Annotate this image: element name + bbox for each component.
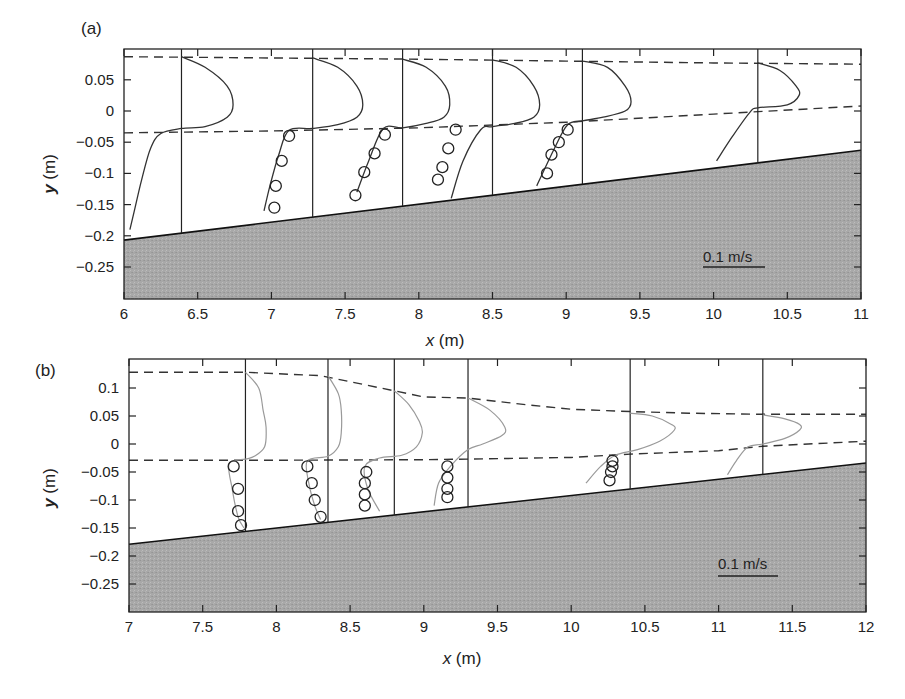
- svg-text:10.5: 10.5: [630, 618, 659, 635]
- bed-sediment: [129, 463, 866, 612]
- panel-label: (a): [81, 19, 102, 38]
- svg-text:6.5: 6.5: [187, 305, 208, 322]
- svg-text:0.05: 0.05: [85, 71, 114, 88]
- svg-text:8: 8: [272, 618, 280, 635]
- svg-text:−0.25: −0.25: [81, 575, 119, 592]
- svg-text:10: 10: [705, 305, 722, 322]
- scale-bar-label: 0.1 m/s: [703, 248, 752, 265]
- svg-text:9: 9: [420, 618, 428, 635]
- svg-text:0: 0: [106, 102, 114, 119]
- panel-label: (b): [35, 361, 56, 380]
- y-axis-label: y (m): [40, 154, 59, 195]
- upper-interface-line: [129, 372, 866, 414]
- svg-text:8: 8: [415, 305, 423, 322]
- svg-text:−0.05: −0.05: [76, 133, 114, 150]
- svg-text:10: 10: [563, 618, 580, 635]
- svg-text:−0.15: −0.15: [81, 519, 119, 536]
- svg-text:7.5: 7.5: [335, 305, 356, 322]
- svg-text:0.05: 0.05: [90, 407, 119, 424]
- svg-text:8.5: 8.5: [482, 305, 503, 322]
- svg-text:10.5: 10.5: [773, 305, 802, 322]
- svg-text:11: 11: [853, 305, 869, 322]
- lower-interface-line: [129, 441, 866, 460]
- svg-text:9.5: 9.5: [629, 305, 650, 322]
- svg-text:8.5: 8.5: [340, 618, 361, 635]
- svg-text:7: 7: [125, 618, 133, 635]
- panel-a: 0.050−0.05−0.1−0.15−0.2−0.25 66.577.588.…: [40, 19, 869, 350]
- svg-text:0.1: 0.1: [98, 379, 119, 396]
- y-axis-label: y (m): [40, 468, 59, 509]
- svg-text:6: 6: [120, 305, 128, 322]
- x-axis-label: x (m): [442, 649, 482, 668]
- svg-text:−0.2: −0.2: [84, 227, 114, 244]
- svg-text:−0.2: −0.2: [89, 547, 119, 564]
- svg-text:−0.15: −0.15: [76, 196, 114, 213]
- svg-text:11: 11: [711, 618, 727, 635]
- svg-text:−0.1: −0.1: [89, 491, 119, 508]
- svg-text:7.5: 7.5: [192, 618, 213, 635]
- x-axis-label: x (m): [425, 331, 465, 350]
- svg-text:9: 9: [562, 305, 570, 322]
- figure: 0.050−0.05−0.1−0.15−0.2−0.25 66.577.588.…: [0, 0, 905, 699]
- svg-text:−0.05: −0.05: [81, 463, 119, 480]
- svg-text:9.5: 9.5: [487, 618, 508, 635]
- panel-b: 0.10.050−0.05−0.1−0.15−0.2−0.25 77.588.5…: [35, 359, 874, 668]
- svg-text:−0.25: −0.25: [76, 258, 114, 275]
- svg-text:11.5: 11.5: [778, 618, 806, 635]
- svg-text:7: 7: [267, 305, 275, 322]
- scale-bar-label: 0.1 m/s: [718, 555, 767, 572]
- svg-text:0: 0: [111, 435, 119, 452]
- svg-text:−0.1: −0.1: [84, 164, 114, 181]
- svg-text:12: 12: [858, 618, 875, 635]
